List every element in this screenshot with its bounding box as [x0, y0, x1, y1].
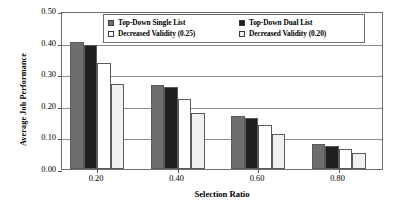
y-tick-label: 0.00: [22, 166, 56, 174]
x-tick-label: 0.20: [66, 174, 126, 183]
legend-label: Top-Down Dual List: [249, 18, 312, 27]
bar: [178, 99, 192, 169]
y-tick-label: 0.20: [22, 103, 56, 111]
y-tick-label: 0.30: [22, 71, 56, 79]
legend: Top-Down Single List Top-Down Dual List …: [103, 14, 365, 43]
bar-chart: Average Job Performance 0.000.100.200.30…: [0, 0, 394, 216]
bar: [111, 84, 125, 169]
bar: [325, 146, 339, 169]
legend-item-3[interactable]: Decreased Validity (0.20): [229, 29, 360, 38]
y-tick-label: 0.40: [22, 40, 56, 48]
legend-label: Decreased Validity (0.20): [249, 29, 326, 38]
bar: [191, 113, 205, 169]
x-axis-title: Selection Ratio: [61, 189, 383, 199]
bar: [312, 144, 326, 169]
legend-swatch-icon: [239, 20, 245, 26]
bar: [231, 116, 245, 169]
bar: [164, 87, 178, 169]
legend-row: Top-Down Single List Top-Down Dual List: [108, 17, 360, 28]
x-tickmark: [178, 169, 179, 173]
x-tick-label: 0.40: [147, 174, 207, 183]
legend-item-1[interactable]: Top-Down Dual List: [229, 18, 360, 27]
bar: [258, 125, 272, 169]
bar: [245, 118, 259, 170]
x-tickmark: [339, 169, 340, 173]
legend-row: Decreased Validity (0.25) Decreased Vali…: [108, 28, 360, 39]
x-tickmark: [97, 169, 98, 173]
x-tickmark: [258, 169, 259, 173]
legend-swatch-icon: [108, 20, 114, 26]
y-tick-label: 0.10: [22, 134, 56, 142]
bar: [272, 134, 286, 169]
bar: [151, 85, 165, 169]
bar: [84, 45, 98, 170]
legend-item-0[interactable]: Top-Down Single List: [108, 18, 229, 27]
legend-swatch-icon: [239, 31, 245, 37]
bar: [352, 153, 366, 169]
x-tick-label: 0.80: [308, 174, 368, 183]
legend-swatch-icon: [108, 31, 114, 37]
y-tickmark: [58, 171, 62, 172]
legend-label: Decreased Validity (0.25): [118, 29, 195, 38]
bar: [339, 149, 353, 169]
legend-label: Top-Down Single List: [118, 18, 185, 27]
legend-item-2[interactable]: Decreased Validity (0.25): [108, 29, 229, 38]
x-tick-label: 0.60: [227, 174, 287, 183]
bar: [70, 42, 84, 169]
y-tick-label: 0.50: [22, 8, 56, 16]
y-axis-tick-labels: 0.000.100.200.300.400.50: [22, 0, 56, 216]
bar: [97, 63, 111, 169]
